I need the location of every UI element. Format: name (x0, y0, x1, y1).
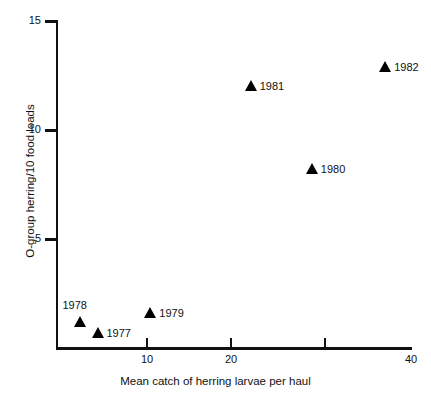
data-point-label-1977: 1977 (107, 328, 131, 339)
y-tick-label-15: 15 (11, 15, 41, 26)
x-tick-10 (146, 338, 148, 348)
x-tick-label-20: 20 (214, 354, 248, 365)
y-tick-5 (45, 238, 58, 241)
data-point-label-1981: 1981 (260, 81, 284, 92)
y-tick-10 (45, 129, 58, 132)
triangle-up-icon (92, 327, 104, 338)
triangle-up-icon (74, 316, 86, 327)
y-tick-15 (45, 20, 58, 23)
x-tick-20 (230, 338, 232, 348)
y-axis-line (56, 21, 58, 350)
triangle-up-icon (144, 307, 156, 318)
x-axis-title: Mean catch of herring larvae per haul (0, 375, 431, 387)
data-point-label-1978: 1978 (63, 300, 87, 311)
data-point-label-1982: 1982 (394, 62, 418, 73)
triangle-up-icon (306, 163, 318, 174)
x-tick-30 (324, 338, 326, 348)
scatter-plot-figure: 51015102040 197819771979198019811982 Mea… (0, 0, 431, 398)
triangle-up-icon (245, 80, 257, 91)
data-point-label-1980: 1980 (321, 164, 345, 175)
y-axis-title: O-group herring/10 food loads (24, 81, 36, 281)
x-axis-line (56, 347, 412, 350)
x-tick-label-40: 40 (394, 354, 428, 365)
x-tick-label-10: 10 (130, 354, 164, 365)
data-point-label-1979: 1979 (159, 308, 183, 319)
triangle-up-icon (379, 61, 391, 72)
